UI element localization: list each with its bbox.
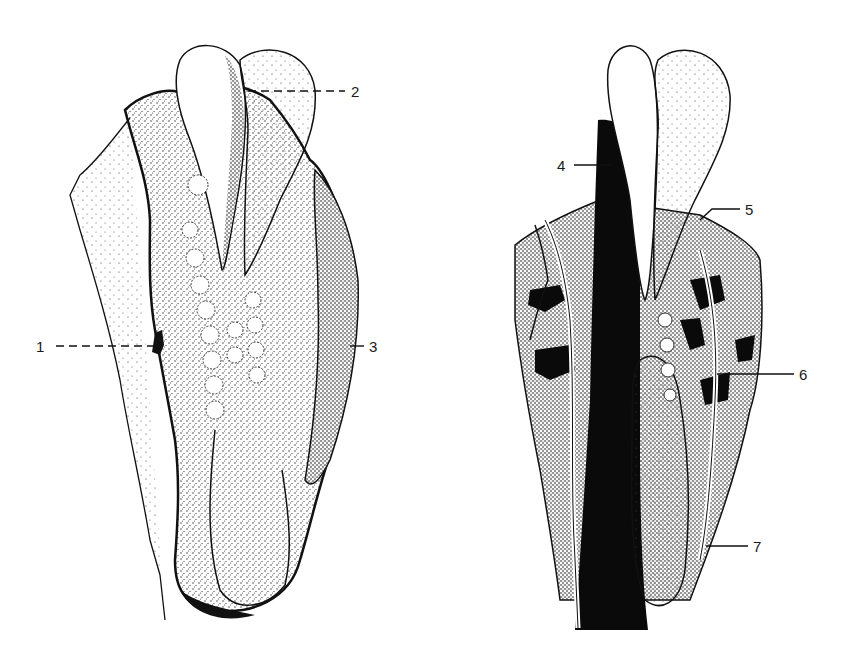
- right-panel: [515, 46, 762, 630]
- label-6: 6: [799, 367, 807, 382]
- label-4: 4: [557, 158, 565, 173]
- label-7: 7: [753, 539, 761, 554]
- label-2: 2: [351, 84, 359, 99]
- embryo-diagram: [0, 0, 843, 656]
- left-panel: [70, 46, 358, 620]
- label-5: 5: [745, 202, 753, 217]
- label-3: 3: [369, 339, 377, 354]
- lower-tongue: [631, 356, 688, 605]
- label-1: 1: [36, 339, 44, 354]
